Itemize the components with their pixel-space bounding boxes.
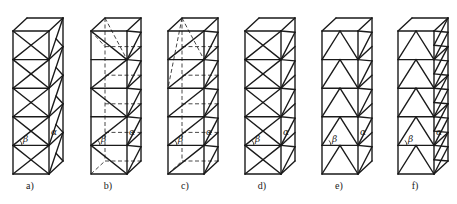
- panel-caption: d): [258, 180, 266, 192]
- alpha-angle-label: α: [283, 127, 289, 137]
- beta-angle-label: β: [100, 134, 106, 144]
- panel-caption: b): [104, 180, 112, 192]
- beta-angle-label: β: [177, 134, 183, 144]
- alpha-angle-label: α: [129, 127, 135, 137]
- panel-caption: f): [412, 180, 419, 192]
- truss-panel-b: βαb): [91, 18, 141, 192]
- beta-angle-label: β: [254, 134, 260, 144]
- truss-figure: βαa)βαb)βαc)βαd)βαe)βαf): [0, 0, 457, 204]
- panel-caption: c): [181, 180, 189, 192]
- alpha-angle-label: α: [206, 127, 212, 137]
- panel-caption: e): [335, 180, 343, 192]
- beta-angle-label: β: [22, 134, 28, 144]
- panel-caption: a): [26, 180, 34, 192]
- truss-panel-d: βαd): [245, 18, 295, 192]
- alpha-angle-label: α: [436, 127, 442, 137]
- beta-angle-label: β: [331, 134, 337, 144]
- truss-panel-a: βαa): [13, 18, 63, 192]
- truss-panel-c: βαc): [168, 18, 218, 192]
- alpha-angle-label: α: [51, 127, 57, 137]
- beta-angle-label: β: [407, 134, 413, 144]
- truss-panel-e: βαe): [322, 18, 372, 192]
- alpha-angle-label: α: [360, 127, 366, 137]
- truss-panel-f: βαf): [398, 18, 448, 192]
